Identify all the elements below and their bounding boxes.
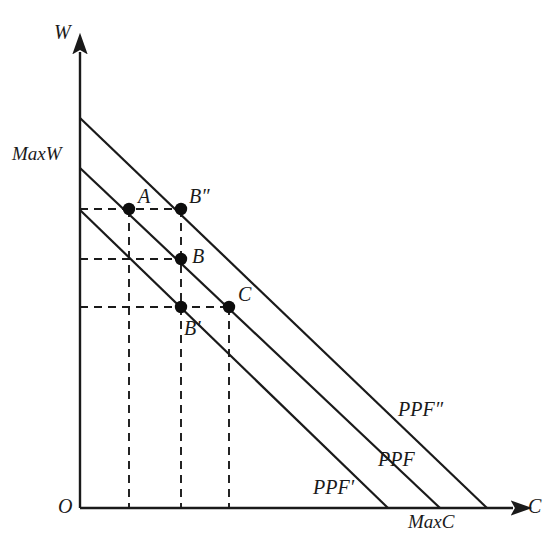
curve-label-ppf: PPF xyxy=(378,449,415,469)
point-a-marker xyxy=(123,203,135,215)
point-b-double-prime-marker xyxy=(175,203,187,215)
horizontal-guides xyxy=(80,209,229,307)
y-tick-label-maxw: MaxW xyxy=(12,144,62,163)
x-tick-label-maxc: MaxC xyxy=(408,512,454,531)
x-axis-label: C xyxy=(528,496,541,516)
ppf-double-prime-line xyxy=(80,118,487,508)
point-label-a: A xyxy=(138,186,150,206)
point-c-marker xyxy=(223,301,235,313)
point-label-b-double-prime: B″ xyxy=(189,186,210,206)
point-label-b-prime: B′ xyxy=(184,318,201,338)
diagram-canvas xyxy=(0,0,558,552)
curve-label-ppf-prime: PPF′ xyxy=(313,477,354,497)
point-b-prime-marker xyxy=(175,301,187,313)
data-points xyxy=(123,203,235,313)
point-label-c: C xyxy=(238,284,251,304)
ppf-diagram: W C O MaxW MaxC PPF″ PPF PPF′ A B″ B B′ … xyxy=(0,0,558,552)
axis-lines xyxy=(80,52,513,508)
curve-label-ppf-double-prime: PPF″ xyxy=(398,399,443,419)
origin-label: O xyxy=(58,496,72,516)
point-label-b: B xyxy=(192,246,204,266)
point-b-marker xyxy=(175,253,187,265)
ppf-prime-line xyxy=(80,210,388,508)
y-axis-label: W xyxy=(54,22,71,42)
ppf-curves xyxy=(80,118,487,508)
